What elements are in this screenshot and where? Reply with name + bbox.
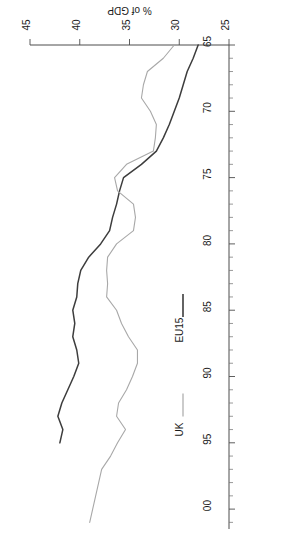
y-axis-tick-label: 40 (71, 19, 82, 31)
y-axis-tick-label: 45 (21, 19, 32, 31)
series-line-uk (90, 45, 175, 522)
y-axis-tick-label: 35 (121, 19, 132, 31)
x-axis-tick-label: 00 (202, 500, 213, 512)
legend-label-uk: UK (174, 422, 185, 436)
x-axis-tick-label: 70 (202, 102, 213, 114)
y-axis-tick-label: 30 (170, 19, 181, 31)
x-axis-tick-label: 80 (202, 234, 213, 246)
x-axis-tick-label: 75 (202, 168, 213, 180)
plot-area: 65707580859095002530354045% of GDPEU15UK (0, 0, 291, 560)
y-axis-title: % of GDP (107, 5, 152, 16)
legend-label-eu15: EU15 (174, 317, 185, 342)
figure-container: 65707580859095002530354045% of GDPEU15UK (0, 0, 291, 560)
x-axis-tick-label: 65 (202, 36, 213, 48)
line-chart: 65707580859095002530354045% of GDPEU15UK (0, 0, 291, 560)
x-axis-tick-label: 95 (202, 433, 213, 445)
y-axis-tick-label: 25 (220, 19, 231, 31)
x-axis-tick-label: 90 (202, 367, 213, 379)
x-axis-tick-label: 85 (202, 301, 213, 313)
rotated-plot-wrapper: 65707580859095002530354045% of GDPEU15UK (0, 0, 291, 560)
series-line-eu15 (58, 45, 198, 443)
